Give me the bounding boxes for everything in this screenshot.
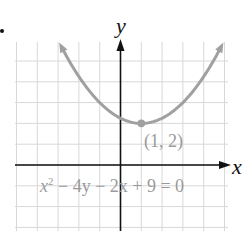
axes [15,39,231,231]
grid-lines [15,42,228,231]
x-axis-label: x [232,154,242,180]
vertex-label: (1, 2) [144,131,183,152]
equation-rest: − 4y − 2x + 9 = 0 [54,176,185,196]
y-axis-label: y [116,13,126,39]
vertex-point [138,120,146,128]
equation-var: x [40,176,48,196]
equation-label: x2 − 4y − 2x + 9 = 0 [40,175,184,197]
